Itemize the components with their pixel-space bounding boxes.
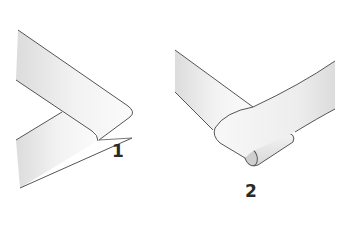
panel-1-label: 1 xyxy=(112,143,124,160)
panel-2-ribbon xyxy=(175,50,335,168)
illustration xyxy=(0,0,355,236)
panel-2-label: 2 xyxy=(245,183,257,200)
panel-1-ribbon xyxy=(16,30,133,188)
